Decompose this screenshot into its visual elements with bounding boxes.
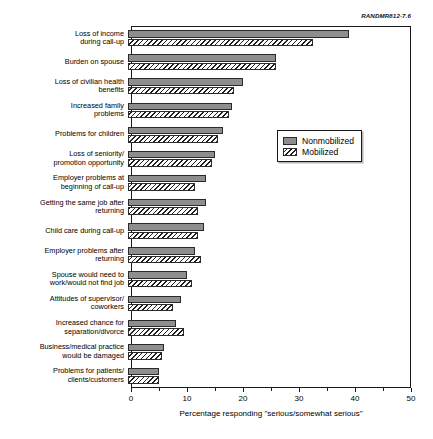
category-label: Loss of seniority/ promotion opportunity [0,150,128,167]
bar-pair [128,74,408,98]
bar-row: Employer problems after returning [0,243,433,267]
bar-row: Problems for children [0,123,433,147]
bar-row: Loss of seniority/ promotion opportunity [0,147,433,171]
x-tick-label: 20 [239,394,248,403]
x-tick [299,388,300,392]
category-label: Problems for children [0,130,128,138]
category-label: Spouse would need to work/would not find… [0,271,128,288]
legend-swatch-nonmobilized [283,137,297,145]
bar-nonmobilized [128,78,243,85]
bar-row: Business/medical practice would be damag… [0,340,433,364]
bar-row: Problems for patients/ clients/customers [0,364,433,388]
bar-nonmobilized [128,247,195,254]
x-tick [131,388,132,392]
bar-mobilized [128,63,276,70]
x-tick [411,388,412,392]
category-label: Problems for patients/ clients/customers [0,367,128,384]
bar-pair [128,26,408,50]
chart-figure: RANDMR812-7.6 Loss of income during call… [0,0,433,439]
bar-row: Getting the same job after returning [0,195,433,219]
category-label: Getting the same job after returning [0,199,128,216]
x-tick-minor [327,388,328,391]
x-tick [187,388,188,392]
x-tick-label: 0 [129,394,133,403]
x-tick-label: 40 [351,394,360,403]
legend-swatch-mobilized [283,148,297,156]
bar-pair [128,98,408,122]
bar-nonmobilized [128,344,164,351]
bar-nonmobilized [128,30,349,37]
category-label: Business/medical practice would be damag… [0,343,128,360]
category-label: Loss of civilian health benefits [0,78,128,95]
category-label: Child care during call-up [0,227,128,235]
bar-pair [128,171,408,195]
legend-label-nonmobilized: Nonmobilized [302,136,354,146]
bar-row: Loss of income during call-up [0,26,433,50]
bar-pair [128,340,408,364]
x-tick-label: 10 [183,394,192,403]
bar-mobilized [128,304,173,311]
category-label: Attitudes of supervisor/ coworkers [0,295,128,312]
bar-pair [128,147,408,171]
x-tick-minor [271,388,272,391]
bar-pair [128,316,408,340]
bar-rows-container: Loss of income during call-upBurden on s… [0,26,433,388]
x-tick-label: 30 [295,394,304,403]
bar-nonmobilized [128,296,181,303]
bar-mobilized [128,135,218,142]
category-label: Employer problems after returning [0,247,128,264]
x-axis: 01020304050 [131,388,411,389]
bar-mobilized [128,232,198,239]
x-tick-minor [215,388,216,391]
bar-row: Burden on spouse [0,50,433,74]
x-tick [243,388,244,392]
bar-mobilized [128,87,234,94]
x-tick [355,388,356,392]
bar-mobilized [128,328,184,335]
category-label: Loss of income during call-up [0,30,128,47]
bar-mobilized [128,280,192,287]
bar-nonmobilized [128,199,206,206]
bar-nonmobilized [128,103,232,110]
category-label: Increased family problems [0,102,128,119]
bar-nonmobilized [128,223,204,230]
bar-pair [128,50,408,74]
bar-mobilized [128,376,159,383]
bar-mobilized [128,256,201,263]
bar-pair [128,219,408,243]
bar-row: Loss of civilian health benefits [0,74,433,98]
bar-mobilized [128,159,212,166]
bar-row: Attitudes of supervisor/ coworkers [0,291,433,315]
bar-row: Increased family problems [0,98,433,122]
category-label: Burden on spouse [0,58,128,66]
bar-mobilized [128,183,195,190]
bar-row: Increased chance for separation/divorce [0,316,433,340]
category-label: Employer problems at beginning of call-u… [0,174,128,191]
bar-nonmobilized [128,271,187,278]
bar-nonmobilized [128,175,206,182]
source-id-label: RANDMR812-7.6 [361,12,411,19]
bar-nonmobilized [128,320,176,327]
bar-row: Child care during call-up [0,219,433,243]
bar-nonmobilized [128,54,276,61]
bar-nonmobilized [128,151,215,158]
bar-mobilized [128,39,313,46]
bar-mobilized [128,207,198,214]
bar-pair [128,123,408,147]
bar-pair [128,195,408,219]
legend-label-mobilized: Mobilized [302,147,338,157]
x-tick-label: 50 [407,394,416,403]
bar-pair [128,291,408,315]
bar-mobilized [128,111,229,118]
legend: Nonmobilized Mobilized [277,130,362,162]
x-tick-minor [159,388,160,391]
bar-pair [128,267,408,291]
bar-nonmobilized [128,127,223,134]
bar-pair [128,364,408,388]
x-axis-title: Percentage responding "serious/somewhat … [131,409,411,418]
legend-item-nonmobilized: Nonmobilized [283,135,354,146]
bar-pair [128,243,408,267]
x-tick-minor [383,388,384,391]
bar-nonmobilized [128,368,159,375]
category-label: Increased chance for separation/divorce [0,319,128,336]
